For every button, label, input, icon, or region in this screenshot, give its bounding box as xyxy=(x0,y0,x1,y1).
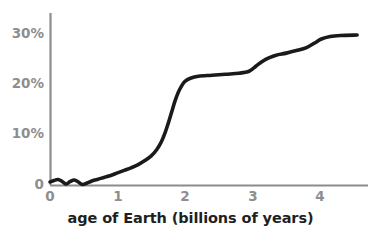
x-tick-label-1: 1 xyxy=(104,190,132,204)
oxygen-curve xyxy=(50,35,357,185)
x-tick-label-3: 3 xyxy=(239,190,267,204)
y-tick-label-30: 30% xyxy=(6,27,44,41)
x-tick-label-0: 0 xyxy=(36,190,64,204)
x-tick-label-2: 2 xyxy=(171,190,199,204)
x-axis-title: age of Earth (billions of years) xyxy=(0,210,381,226)
y-tick-label-10: 10% xyxy=(6,127,44,141)
x-tick-label-4: 4 xyxy=(306,190,334,204)
chart-container: 30% 20% 10% 0 0 1 2 3 4 age of Earth (bi… xyxy=(0,0,381,243)
chart-plot-area xyxy=(0,0,381,243)
y-tick-label-20: 20% xyxy=(6,77,44,91)
